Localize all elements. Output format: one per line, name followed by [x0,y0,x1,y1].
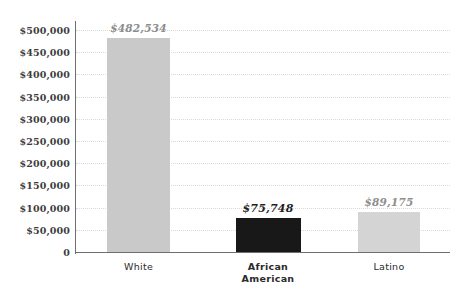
y-axis-tick-label: $350,000 [2,91,70,102]
y-axis-tick-label: $450,000 [2,47,70,58]
bar [107,38,170,252]
bar-value-label: $75,748 [208,202,328,215]
bar-chart: 0$50,000$100,000$150,000$200,000$250,000… [0,0,468,295]
bar-value-label: $482,534 [79,22,199,34]
y-axis-tick-label: $250,000 [2,136,70,147]
x-axis-category-label: AfricanAmerican [208,261,328,285]
y-axis-tick-labels: 0$50,000$100,000$150,000$200,000$250,000… [0,0,70,295]
y-axis-tick-label: $150,000 [2,180,70,191]
x-axis-category-label-line: African [208,261,328,273]
y-axis-tick-label: $400,000 [2,69,70,80]
y-axis-tick-label: $100,000 [2,202,70,213]
y-axis-tick-label: $200,000 [2,158,70,169]
bars-layer [76,22,450,253]
y-axis-tick-label: 0 [2,247,70,258]
bar-value-label: $89,175 [329,196,449,208]
y-axis-tick-label: $50,000 [2,224,70,235]
x-axis-category-label-line: American [208,273,328,285]
x-axis-category-label: Latino [329,261,449,273]
y-axis-tick-label: $500,000 [2,25,70,36]
x-axis-category-label-line: White [79,261,199,273]
y-axis-tick-label: $300,000 [2,113,70,124]
bar [236,218,301,252]
bar [358,212,420,252]
x-axis-category-label-line: Latino [329,261,449,273]
x-axis-category-label: White [79,261,199,273]
